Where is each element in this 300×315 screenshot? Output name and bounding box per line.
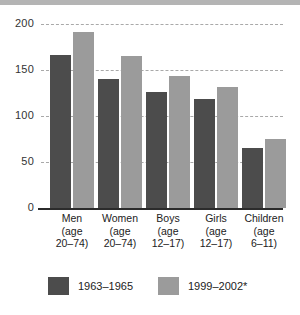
bar-group <box>98 24 142 208</box>
x-axis-category-line: (age <box>233 225 295 238</box>
x-axis-category-line: 6–11) <box>233 237 295 250</box>
bar <box>217 87 238 208</box>
bars-layer <box>0 0 300 315</box>
legend-label-1963-1965: 1963–1965 <box>78 277 133 295</box>
bar <box>265 139 286 208</box>
legend-label-1999-2002: 1999–2002* <box>188 277 247 295</box>
bar-group <box>194 24 238 208</box>
bar-group <box>242 24 286 208</box>
legend-item-1963-1965: 1963–1965 <box>48 277 133 295</box>
legend-swatch-icon-1963-1965 <box>48 277 69 295</box>
bar <box>121 56 142 208</box>
bar-group <box>50 24 94 208</box>
chart-legend: 1963–1965 1999–2002* <box>0 277 300 301</box>
bar <box>194 99 215 208</box>
legend-swatch-icon-1999-2002 <box>158 277 179 295</box>
plot-area: 050100150200 Men(age20–74)Women(age20–74… <box>0 0 300 315</box>
x-axis-category-label: Children(age6–11) <box>233 212 295 250</box>
bar <box>73 32 94 208</box>
bar <box>242 148 263 208</box>
x-axis-category-line: Children <box>233 212 295 225</box>
chart-page: 050100150200 Men(age20–74)Women(age20–74… <box>0 0 300 315</box>
bar-group <box>146 24 190 208</box>
bar <box>50 55 71 208</box>
bar <box>146 92 167 208</box>
bar <box>98 79 119 208</box>
bar <box>169 76 190 208</box>
legend-item-1999-2002: 1999–2002* <box>158 277 247 295</box>
